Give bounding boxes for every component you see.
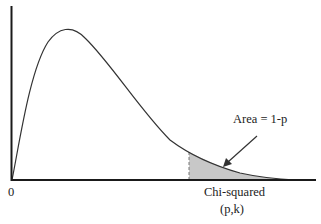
density-curve xyxy=(12,29,296,180)
chi-squared-figure: 0 Chi-squared (p,k) Area = 1-p xyxy=(0,0,321,224)
annotation-arrow xyxy=(228,136,257,162)
shaded-tail-area xyxy=(189,152,296,180)
origin-label: 0 xyxy=(8,185,14,200)
critical-value-params: (p,k) xyxy=(204,202,260,217)
area-annotation: Area = 1-p xyxy=(233,112,287,127)
critical-value-label: Chi-squared xyxy=(204,185,260,200)
